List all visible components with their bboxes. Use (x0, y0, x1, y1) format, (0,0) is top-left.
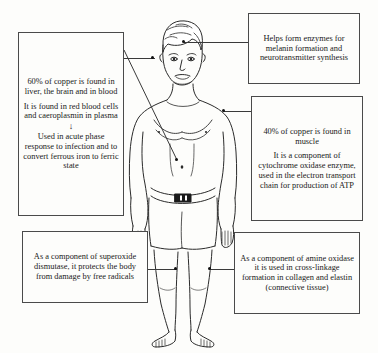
callout-superoxide-dismutase: As a component of superoxide dismutase, … (22, 231, 148, 303)
callout-liver-text-3: Used in acute phase response to infectio… (23, 132, 119, 171)
anchor-dot-abdomen (175, 158, 178, 161)
callout-liver-text-1: 60% of copper is found in liver, the bra… (23, 77, 119, 97)
callout-amine-oxidase: As a component of amine oxidase it is us… (234, 232, 360, 314)
anchor-dot-right-knee (208, 267, 211, 270)
anchor-dot-right-eye (182, 40, 185, 43)
connector-muscle-to-chest (224, 111, 251, 112)
callout-amine-text-1: As a component of amine oxidase it is us… (239, 254, 355, 293)
callout-muscle-text-2: It is a component of cytochrome oxidase … (256, 151, 358, 190)
connector-enzymes-to-head (184, 42, 248, 43)
connector-sod-to-left-knee (148, 269, 177, 270)
callout-enzymes-text-1: Helps form enzymes for melanin formation… (253, 34, 355, 63)
callout-sod-text-1: As a component of superoxide dismutase, … (27, 252, 143, 281)
callout-muscle-cytochrome: 40% of copper is found in muscle It is a… (251, 96, 363, 221)
anchor-dot-right-chest (222, 109, 225, 112)
callout-muscle-text-1: 40% of copper is found in muscle (256, 127, 358, 147)
callout-liver-text-2: It is found in red blood cells and caero… (23, 102, 119, 122)
connector-amine-to-right-knee (210, 269, 234, 270)
anchor-dot-left-knee (174, 267, 177, 270)
down-arrow-icon: ↓ (69, 122, 74, 131)
callout-liver-brain-blood: 60% of copper is found in liver, the bra… (18, 32, 124, 216)
anchor-dot-left-eye (151, 56, 154, 59)
diagram-canvas: 60% of copper is found in liver, the bra… (0, 0, 378, 353)
callout-melanin-enzymes: Helps form enzymes for melanin formation… (248, 13, 360, 84)
